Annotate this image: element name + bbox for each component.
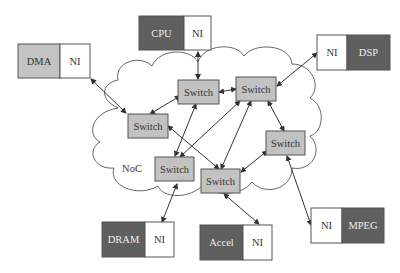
core-label: DRAM <box>108 234 140 245</box>
switch-s3: Switch <box>128 114 168 138</box>
ni-label: NI <box>154 234 166 245</box>
noc-label: NoC <box>122 163 142 174</box>
core-dram: DRAM NI <box>102 222 174 257</box>
link-dsp-s2 <box>277 53 317 86</box>
ni-label: NI <box>192 28 204 39</box>
ni-label: NI <box>69 56 81 67</box>
core-label: DSP <box>359 47 378 58</box>
switch-s6: Switch <box>201 169 240 193</box>
switch-label: Switch <box>241 84 271 95</box>
ni-label: NI <box>321 220 333 231</box>
link-mpeg-s4 <box>287 156 311 225</box>
core-cpu: CPU NI <box>139 16 211 50</box>
switch-label: Switch <box>206 176 236 187</box>
core-label: MPEG <box>348 220 378 231</box>
core-mpeg: NI MPEG <box>311 208 384 243</box>
ni-label: NI <box>326 47 338 58</box>
link-s1-s3 <box>150 96 180 114</box>
link-s2-s5 <box>180 101 240 157</box>
link-s1-s2 <box>219 89 236 92</box>
link-s1-s5 <box>175 104 196 156</box>
core-dma: DMA NI <box>18 44 90 78</box>
switch-label: Switch <box>160 164 190 175</box>
core-label: CPU <box>151 28 172 39</box>
noc-diagram: NoC Switch Switch Switch Switch Switch <box>0 0 400 273</box>
link-s2-s6 <box>221 101 251 169</box>
core-dsp: NI DSP <box>317 35 390 70</box>
link-s2-s4 <box>268 101 284 131</box>
switch-s1: Switch <box>178 80 219 104</box>
switch-s5: Switch <box>155 157 194 181</box>
link-s4-s6 <box>241 151 267 172</box>
link-dram-s5 <box>162 184 177 222</box>
core-label: DMA <box>27 56 52 67</box>
core-label: Accel <box>209 237 234 248</box>
link-accel-s6 <box>224 194 259 224</box>
switch-label: Switch <box>133 121 163 132</box>
ni-label: NI <box>252 237 264 248</box>
switch-s4: Switch <box>266 131 305 155</box>
switch-label: Switch <box>184 87 214 98</box>
switch-s2: Switch <box>236 77 276 101</box>
core-accel: Accel NI <box>200 225 272 260</box>
switch-label: Switch <box>271 138 301 149</box>
